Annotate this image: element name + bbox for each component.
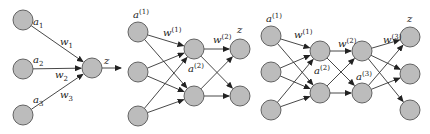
- connection-arrow: [201, 57, 232, 89]
- neural-network-diagram: a1a2a3w1w2w3z a(1)w(1)w(2)a(2)z a(1)w(1)…: [0, 0, 430, 134]
- neuron-node-a2: [13, 59, 33, 79]
- connection-arrow: [147, 100, 183, 113]
- connection-arrow: [278, 44, 313, 85]
- neuron-node-a1: [13, 10, 33, 30]
- label-a: a3: [33, 94, 43, 108]
- connection-arrow: [31, 26, 83, 62]
- label-a: a(1): [266, 12, 282, 24]
- neuron-node-o2: [400, 64, 420, 84]
- connection-arrow: [280, 97, 309, 107]
- one-hidden-layer-network: a(1)w(1)w(2)a(2)z: [128, 8, 250, 126]
- label-w: w(1): [294, 28, 313, 40]
- neuron-node-i2: [261, 62, 281, 82]
- neuron-node-o1: [230, 39, 250, 59]
- neuron-node-g2: [352, 83, 372, 103]
- neuron-node-i1: [261, 26, 281, 46]
- label-w: w(2): [213, 33, 232, 45]
- label-a: a(1): [133, 8, 149, 20]
- label-w: w2: [55, 69, 68, 83]
- neuron-node-z: [82, 58, 102, 78]
- connection-arrow: [201, 56, 232, 88]
- label-a: a(3): [356, 70, 372, 82]
- connection-arrow: [281, 39, 310, 48]
- neuron-node-i3: [128, 106, 148, 126]
- connection-arrow: [277, 59, 313, 102]
- neuron-node-h2: [184, 86, 204, 106]
- single-neuron-network: a1a2a3w1w2w3z: [13, 10, 121, 125]
- label-a: a(2): [314, 64, 330, 76]
- neuron-node-a3: [13, 105, 33, 125]
- connection-arrow: [147, 53, 184, 68]
- label-w: w3: [60, 89, 73, 103]
- label-w: w(1): [163, 26, 182, 38]
- neuron-node-h2: [310, 83, 330, 103]
- neuron-node-i3: [261, 100, 281, 120]
- neuron-node-o2: [230, 86, 250, 106]
- two-hidden-layer-network: a(1)w(1)w(2)w(3)a(2)a(3)z: [261, 12, 420, 120]
- label-a: a2: [33, 54, 43, 68]
- label-z: z: [406, 13, 413, 24]
- label-a: a(2): [188, 62, 204, 74]
- label-w: w(3): [383, 33, 402, 45]
- connection-arrow: [327, 59, 354, 86]
- label-w: w1: [60, 36, 73, 50]
- neuron-node-i1: [128, 22, 148, 42]
- neuron-node-i2: [128, 62, 148, 82]
- label-z: z: [236, 24, 243, 35]
- neuron-node-o1: [400, 27, 420, 47]
- neuron-node-h1: [310, 41, 330, 61]
- neuron-node-o3: [400, 100, 420, 120]
- connection-arrow: [280, 76, 310, 89]
- neuron-node-h1: [184, 39, 204, 59]
- connection-arrow: [280, 55, 310, 68]
- connection-arrow: [327, 58, 354, 85]
- label-z: z: [103, 55, 110, 66]
- connection-arrow: [145, 40, 187, 88]
